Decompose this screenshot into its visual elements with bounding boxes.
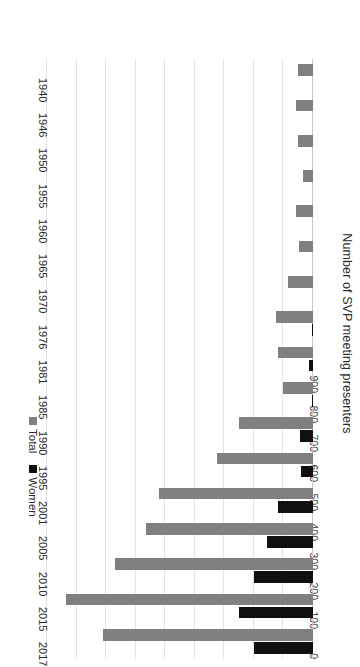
bar-total xyxy=(288,276,313,288)
bar-total xyxy=(239,417,313,429)
value-tick-label: 200 xyxy=(314,594,338,606)
chart-figure: Number of SVP meeting presenters 0100200… xyxy=(0,0,360,667)
value-tick-label: 800 xyxy=(314,417,338,429)
bar-total xyxy=(217,453,313,465)
category-label: 1950 xyxy=(0,140,46,154)
category-label: 2017 xyxy=(0,634,46,648)
bar-group xyxy=(47,306,313,341)
legend-label: Women xyxy=(27,477,39,516)
bar-group xyxy=(47,235,313,270)
bar-group xyxy=(47,94,313,129)
bar-group xyxy=(47,447,313,482)
legend-swatch-icon xyxy=(29,465,37,473)
bar-group xyxy=(47,341,313,376)
bar-total xyxy=(103,629,313,641)
bar-total xyxy=(146,523,313,535)
bar-total xyxy=(296,206,313,218)
bar-total xyxy=(276,311,313,323)
value-axis-title: Number of SVP meeting presenters xyxy=(336,0,358,667)
bar-group xyxy=(47,624,313,659)
chart-root: Number of SVP meeting presenters 0100200… xyxy=(0,0,360,667)
legend-item[interactable]: Women xyxy=(27,465,39,516)
bar-group xyxy=(47,59,313,94)
value-tick-label: 400 xyxy=(314,535,338,547)
bar-total xyxy=(296,100,313,112)
bar-women xyxy=(254,572,313,584)
category-label: 1946 xyxy=(0,105,46,119)
bar-group xyxy=(47,412,313,447)
bar-women xyxy=(312,324,313,336)
bar-group xyxy=(47,518,313,553)
bar-women xyxy=(300,430,313,442)
value-axis-tick-labels: 0100200300400500600700800900 xyxy=(314,0,338,667)
plot-area xyxy=(47,59,313,659)
value-tick-label: 0 xyxy=(314,653,338,665)
bar-women xyxy=(301,466,313,478)
bars-layer xyxy=(47,59,313,659)
bar-group xyxy=(47,130,313,165)
bar-group xyxy=(47,271,313,306)
value-tick-label: 900 xyxy=(314,387,338,399)
bar-group xyxy=(47,200,313,235)
value-tick-label: 100 xyxy=(314,623,338,635)
bar-women xyxy=(278,501,313,513)
bar-women xyxy=(267,536,313,548)
bar-total xyxy=(299,241,313,253)
legend-items: TotalWomen xyxy=(24,417,42,617)
bar-group xyxy=(47,588,313,623)
legend-label: Total xyxy=(27,429,39,453)
bar-women xyxy=(312,395,313,407)
bar-total xyxy=(283,382,313,394)
bar-total xyxy=(303,170,313,182)
bar-group xyxy=(47,553,313,588)
bar-total xyxy=(115,558,313,570)
bar-group xyxy=(47,165,313,200)
bar-total xyxy=(66,594,313,606)
bar-total xyxy=(278,347,313,359)
bar-group xyxy=(47,483,313,518)
bar-total xyxy=(298,64,313,76)
bar-total xyxy=(159,488,313,500)
bar-group xyxy=(47,377,313,412)
value-tick-label: 700 xyxy=(314,446,338,458)
value-tick-label: 300 xyxy=(314,564,338,576)
bar-women xyxy=(254,642,313,654)
value-tick-label: 500 xyxy=(314,505,338,517)
bar-total xyxy=(298,135,313,147)
legend-swatch-icon xyxy=(29,417,37,425)
bar-women xyxy=(309,360,313,372)
chart-legend: TotalWomen xyxy=(2,217,42,417)
bar-women xyxy=(239,607,313,619)
legend-item[interactable]: Total xyxy=(27,417,39,453)
category-label: 1955 xyxy=(0,176,46,190)
value-tick-label: 600 xyxy=(314,476,338,488)
category-label: 1940 xyxy=(0,70,46,84)
